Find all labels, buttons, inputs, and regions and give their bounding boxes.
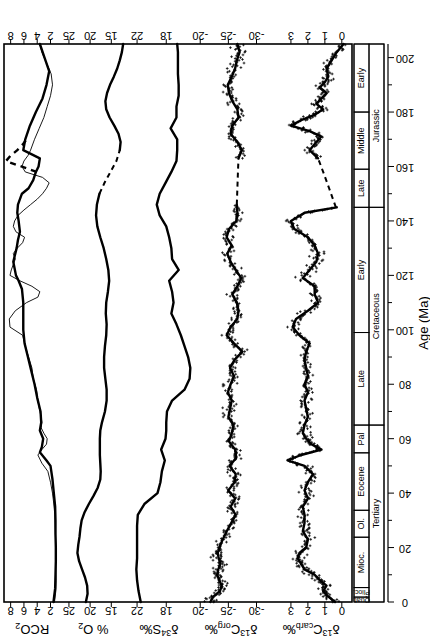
ytick-label-left: 25: [63, 605, 75, 617]
data-point: [221, 566, 224, 569]
data-point: [217, 586, 220, 589]
data-point: [230, 55, 233, 58]
age-tick-label: 180: [396, 107, 414, 119]
data-point: [234, 505, 237, 508]
data-point: [239, 285, 242, 288]
data-point: [233, 405, 236, 408]
data-point: [297, 515, 300, 518]
data-point: [300, 354, 303, 357]
data-point: [336, 598, 339, 601]
data-point: [307, 361, 310, 364]
data-point: [229, 475, 232, 478]
data-point: [318, 574, 321, 577]
data-point: [229, 426, 232, 429]
data-point: [228, 535, 231, 538]
data-point: [242, 353, 245, 356]
data-point: [230, 415, 233, 418]
timescale-period-label: Cretaceous: [371, 293, 381, 340]
data-point: [317, 587, 320, 590]
data-point: [243, 62, 246, 65]
data-point: [228, 125, 231, 128]
data-point: [238, 454, 241, 457]
age-axis: 020406080100120140160180200Age (Ma): [388, 44, 430, 609]
ytick-label-left: 18: [160, 605, 172, 617]
data-point: [313, 480, 316, 483]
ytick-label-left: -20: [192, 605, 208, 617]
data-point: [229, 295, 232, 298]
series-atmospheric-oxygen: [77, 194, 109, 602]
data-point: [309, 311, 312, 314]
data-point: [236, 342, 239, 345]
data-point: [215, 540, 218, 543]
data-point: [311, 577, 314, 580]
data-point: [226, 471, 229, 474]
timescale-epoch-label: Mioc.: [356, 552, 366, 574]
data-point: [306, 356, 309, 359]
data-point: [226, 67, 229, 70]
data-point: [233, 433, 236, 436]
data-point: [236, 425, 239, 428]
ytick-label-right: 2: [47, 30, 53, 42]
age-axis-label: Age (Ma): [416, 296, 430, 349]
data-point: [309, 363, 312, 366]
ytick-label-right: -25: [220, 30, 236, 42]
ytick-label-right: 8: [8, 30, 14, 42]
data-point: [319, 82, 322, 85]
data-point: [308, 417, 311, 420]
data-point: [240, 267, 243, 270]
data-point: [305, 264, 308, 267]
data-point: [306, 514, 309, 517]
data-point: [241, 58, 244, 61]
ytick-label-left: -30: [249, 605, 265, 617]
data-point: [306, 520, 309, 523]
ytick-label-right: 20: [84, 30, 96, 42]
ytick-label-left: 0: [339, 605, 345, 617]
data-point: [226, 510, 229, 513]
timescale-period-label: Tertiary: [371, 498, 381, 528]
data-point: [301, 570, 304, 573]
data-point: [234, 467, 237, 470]
data-point: [233, 284, 236, 287]
data-point: [290, 328, 293, 331]
data-point: [242, 54, 245, 57]
data-point: [229, 63, 232, 66]
data-point: [303, 556, 306, 559]
data-point: [315, 84, 318, 87]
data-point: [298, 508, 301, 511]
data-point: [309, 431, 312, 434]
data-point: [236, 376, 239, 379]
data-point: [238, 103, 241, 106]
data-point: [239, 474, 242, 477]
figure-svg: 22446688RCO2151520202525% O218182222δ34S…: [0, 0, 430, 644]
data-point: [307, 503, 310, 506]
data-point: [301, 545, 304, 548]
age-tick-label: 0: [402, 597, 408, 609]
data-point: [303, 572, 306, 575]
data-point: [294, 550, 297, 553]
data-point: [311, 465, 314, 468]
data-point: [212, 559, 215, 562]
data-point: [228, 429, 231, 432]
scatter-cloud: [203, 44, 248, 604]
data-point: [230, 317, 233, 320]
data-point: [243, 350, 246, 353]
data-point: [236, 382, 239, 385]
data-point: [303, 149, 306, 152]
data-point: [238, 495, 241, 498]
data-point: [235, 97, 238, 100]
data-point: [222, 412, 225, 415]
data-point: [296, 312, 299, 315]
ytick-label-right: 2: [305, 30, 311, 42]
ytick-label-right: 15: [105, 30, 117, 42]
data-point: [225, 584, 228, 587]
data-point: [307, 401, 310, 404]
data-point: [240, 113, 243, 116]
data-point: [299, 310, 302, 313]
timescale-epoch-label: Early: [356, 67, 366, 88]
data-point: [313, 536, 316, 539]
ytick-label-right: 1: [322, 30, 328, 42]
data-point: [239, 356, 242, 359]
age-tick-label: 120: [396, 270, 414, 282]
data-point: [286, 326, 289, 329]
ytick-label-left: 8: [8, 605, 14, 617]
